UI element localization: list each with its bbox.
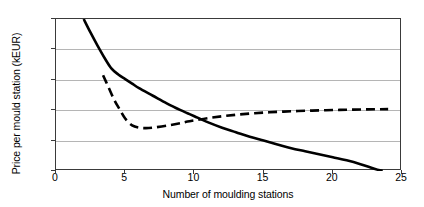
series-solid-curve — [84, 19, 383, 171]
y-tick-mark — [51, 109, 55, 110]
chart-figure: Price per mould station (kEUR) 709011013… — [0, 0, 424, 207]
curves-layer — [56, 19, 402, 171]
x-tick-mark — [401, 170, 402, 174]
y-tick-mark — [51, 79, 55, 80]
x-tick-mark — [263, 170, 264, 174]
x-tick-mark — [193, 170, 194, 174]
x-tick-mark — [55, 170, 56, 174]
y-axis-title: Price per mould station (kEUR) — [10, 0, 30, 207]
y-tick-mark — [51, 18, 55, 19]
x-tick-mark — [332, 170, 333, 174]
x-tick-mark — [124, 170, 125, 174]
y-tick-mark — [51, 140, 55, 141]
series-dashed-curve — [103, 75, 388, 128]
x-axis-title: Number of moulding stations — [55, 188, 401, 200]
y-tick-mark — [51, 48, 55, 49]
plot-area — [55, 18, 401, 170]
